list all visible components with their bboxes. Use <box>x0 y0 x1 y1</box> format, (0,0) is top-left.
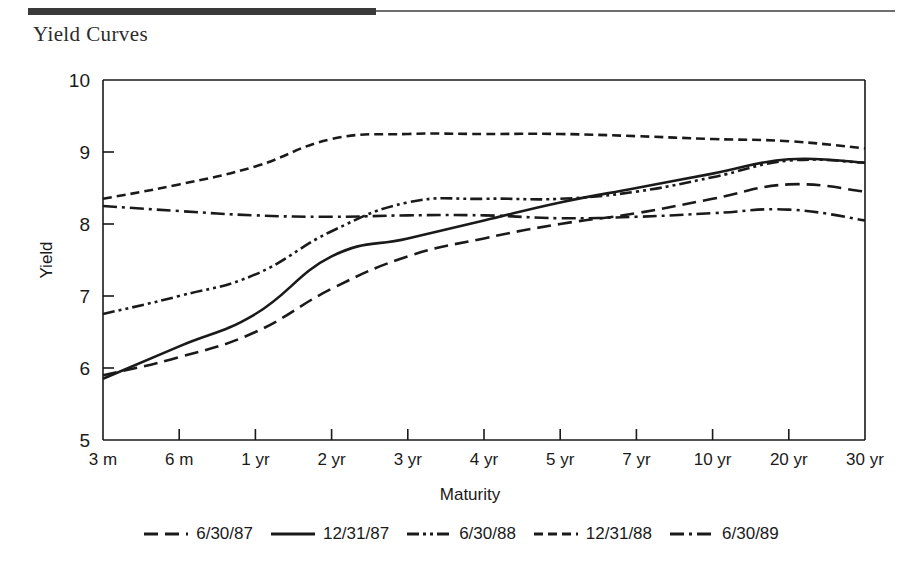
y-tick-label: 7 <box>79 286 90 307</box>
y-tick-label: 10 <box>69 70 90 91</box>
x-tick-label: 2 yr <box>317 450 346 469</box>
legend-item-6-30-88[interactable]: 6/30/88 <box>406 524 516 544</box>
yield-curves-chart: 5678910 3 m6 m1 yr2 yr3 yr4 yr5 yr7 yr10… <box>0 0 922 574</box>
plot-frame <box>103 80 865 440</box>
x-tick-label: 4 yr <box>470 450 499 469</box>
y-tick-label: 6 <box>79 358 90 379</box>
legend-swatch-icon <box>270 527 316 541</box>
legend-swatch-icon <box>406 527 452 541</box>
legend-swatch-icon <box>143 527 189 541</box>
legend-label: 6/30/88 <box>459 524 516 544</box>
series-line-6-30-89 <box>103 206 865 220</box>
legend-item-6-30-87[interactable]: 6/30/87 <box>143 524 253 544</box>
legend-item-12-31-87[interactable]: 12/31/87 <box>270 524 389 544</box>
chart-svg: 5678910 3 m6 m1 yr2 yr3 yr4 yr5 yr7 yr10… <box>0 0 922 520</box>
x-axis: 3 m6 m1 yr2 yr3 yr4 yr5 yr7 yr10 yr20 yr… <box>89 429 884 469</box>
x-tick-label: 3 m <box>89 450 117 469</box>
x-tick-label: 10 yr <box>694 450 732 469</box>
series-lines <box>103 134 865 379</box>
x-tick-label: 3 yr <box>394 450 423 469</box>
x-tick-label: 1 yr <box>241 450 270 469</box>
x-tick-label: 6 m <box>165 450 193 469</box>
legend-label: 12/31/87 <box>323 524 389 544</box>
legend-item-6-30-89[interactable]: 6/30/89 <box>669 524 779 544</box>
legend-swatch-icon <box>533 527 579 541</box>
legend-label: 6/30/87 <box>196 524 253 544</box>
page-root: Yield Curves 5678910 3 m6 m1 yr2 yr3 yr4… <box>0 0 922 574</box>
y-tick-label: 9 <box>79 142 90 163</box>
y-tick-label: 8 <box>79 214 90 235</box>
x-tick-label: 5 yr <box>546 450 575 469</box>
x-tick-label: 30 yr <box>846 450 884 469</box>
y-axis-title: Yield <box>37 241 56 278</box>
legend-swatch-icon <box>669 527 715 541</box>
legend-label: 6/30/89 <box>722 524 779 544</box>
x-tick-label: 7 yr <box>622 450 651 469</box>
chart-legend: 6/30/8712/31/876/30/8812/31/886/30/89 <box>0 524 922 544</box>
legend-item-12-31-88[interactable]: 12/31/88 <box>533 524 652 544</box>
x-tick-label: 20 yr <box>770 450 808 469</box>
x-axis-title: Maturity <box>440 485 501 504</box>
series-line-6-30-88 <box>103 160 865 314</box>
legend-label: 12/31/88 <box>586 524 652 544</box>
y-tick-label: 5 <box>79 430 90 451</box>
y-axis: 5678910 <box>69 70 114 451</box>
